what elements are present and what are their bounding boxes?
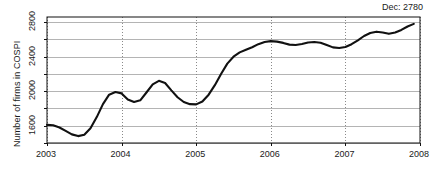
- y-tick-label: 2400: [27, 44, 37, 68]
- line-chart-plot: [0, 0, 432, 173]
- y-tick-label: 2800: [27, 9, 37, 33]
- x-tick-label: 2007: [334, 149, 354, 159]
- x-tick-label: 2008: [409, 149, 429, 159]
- y-tick-label: 1600: [27, 113, 37, 137]
- data-series-line: [47, 24, 414, 136]
- x-tick-label: 2005: [185, 149, 205, 159]
- x-tick-label: 2003: [36, 149, 56, 159]
- x-tick-label: 2004: [111, 149, 131, 159]
- y-tick-label: 2000: [27, 78, 37, 102]
- chart-container: Dec: 2780 Number of firms in COSPI 20032…: [0, 0, 432, 173]
- horizontal-gridlines: [47, 23, 420, 144]
- x-tick-label: 2006: [260, 149, 280, 159]
